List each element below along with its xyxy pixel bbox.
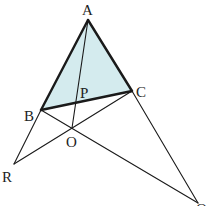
label-q: Q <box>196 201 207 206</box>
geometry-diagram: A B C P O R Q <box>0 0 221 206</box>
segment-bq <box>41 110 198 203</box>
point-labels: A B C P O R Q <box>2 2 207 206</box>
label-p: P <box>80 85 88 101</box>
segments <box>14 20 198 203</box>
label-a: A <box>82 2 93 18</box>
label-c: C <box>136 84 146 100</box>
segment-cq <box>132 91 198 203</box>
label-r: R <box>2 169 12 185</box>
label-o: O <box>66 134 77 150</box>
label-b: B <box>24 108 34 124</box>
